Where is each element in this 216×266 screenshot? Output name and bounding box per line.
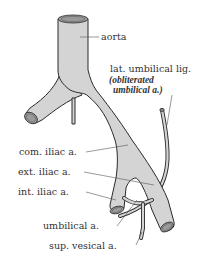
aorta-lumen — [58, 15, 88, 23]
label-aorta: aorta — [101, 31, 127, 42]
label-obliterated-line2: umbilical a.) — [113, 85, 163, 96]
arterial-diagram: aorta lat. umbilical lig. (obliterated u… — [0, 0, 216, 266]
label-umbilical: umbilical a. — [43, 220, 99, 231]
label-sup-vesical: sup. vesical a. — [49, 240, 117, 251]
label-lat-umbilical-lig: lat. umbilical lig. — [110, 63, 191, 74]
label-com-iliac: com. iliac a. — [19, 146, 77, 157]
ligament-stump — [160, 109, 164, 112]
median-sacral-artery — [72, 98, 75, 124]
label-ext-iliac: ext. iliac a. — [18, 166, 71, 177]
label-int-iliac: int. iliac a. — [18, 186, 69, 197]
aorta-and-right-iliac — [58, 19, 174, 231]
leader-lat-umbilical — [167, 95, 172, 125]
